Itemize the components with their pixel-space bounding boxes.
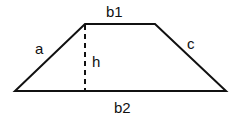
label-c: c xyxy=(187,35,195,52)
trapezoid-diagram: b1 a h c b2 xyxy=(0,0,235,121)
label-h: h xyxy=(92,53,100,70)
label-b1: b1 xyxy=(106,3,123,20)
label-a: a xyxy=(35,40,44,57)
label-b2: b2 xyxy=(114,99,131,116)
